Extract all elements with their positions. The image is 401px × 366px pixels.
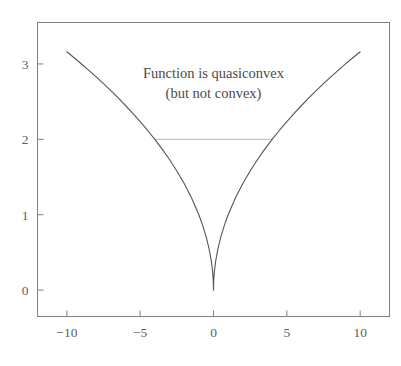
x-axis-tick-label: 0 [210,325,217,340]
chart-figure: 0123 −10−50510 Function is quasiconvex (… [0,0,401,366]
annotation-line-1: Function is quasiconvex [143,65,285,81]
annotation-line-2: (but not convex) [166,85,262,102]
y-axis-tick-label: 3 [22,57,29,72]
chart-background [0,0,401,366]
x-axis-tick-label: 10 [353,325,367,340]
x-axis-tick-label: 5 [283,325,290,340]
y-axis-tick-label: 2 [22,132,29,147]
x-axis-tick-label: −10 [56,325,77,340]
y-axis-tick-label: 0 [22,283,29,298]
y-axis-tick-label: 1 [22,208,29,223]
x-axis-tick-label: −5 [133,325,148,340]
quasiconvex-function-plot: 0123 −10−50510 Function is quasiconvex (… [0,0,401,366]
